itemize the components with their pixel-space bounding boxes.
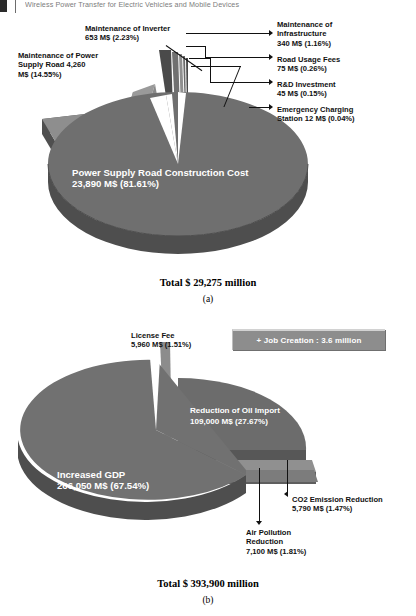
label-reduction-of-oil-import: Reduction of Oil Import 109,000 M$ (27.6… [190, 406, 340, 427]
job-creation-badge: + Job Creation : 3.6 million [232, 329, 385, 350]
figure-caption-b: (b) [0, 595, 416, 605]
label-co2-emission-reduction: CO2 Emission Reduction 5,790 M$ (1.47%) [292, 495, 416, 514]
label-line-1: Road Usage Fees [277, 55, 412, 64]
label-line-2: 45 M$ (0.15%) [277, 89, 412, 98]
leader-line-co2 [287, 460, 288, 494]
arrow-rnd-icon [269, 79, 273, 85]
leader-line-emergency-c [249, 107, 270, 108]
running-head-title: Wireless Power Transfer for Electric Veh… [25, 0, 405, 11]
page-marker-block [0, 0, 7, 12]
label-line-2: 653 M$ (2.23%) [85, 33, 203, 42]
job-creation-badge-text: + Job Creation : 3.6 million [233, 331, 385, 350]
leader-line-rnd-b [210, 58, 211, 82]
arrow-infrastructure-icon [269, 30, 273, 36]
label-emergency-charging-station: Emergency Charging Station 12 M$ (0.04%) [277, 105, 415, 124]
total-label-b: Total $ 393,900 million [0, 578, 416, 589]
label-license-fee: License Fee 5,960 M$ (1.51%) [131, 331, 231, 350]
figure-page: Wireless Power Transfer for Electric Veh… [0, 0, 416, 616]
label-line-2: 23,890 M$ (81.61%) [72, 179, 322, 190]
arrow-road-usage-icon [269, 54, 273, 60]
label-maintenance-power-supply-road: Maintenance of Power Supply Road 4,260 M… [18, 51, 128, 79]
label-line-1: Air Pollution [246, 528, 356, 537]
label-line-2: Supply Road 4,260 [18, 60, 128, 69]
label-line-3: 7,100 M$ (1.81%) [246, 547, 356, 556]
total-label-a: Total $ 29,275 million [0, 277, 416, 288]
leader-line-infrastructure [186, 33, 270, 34]
label-line-1: Maintenance of [277, 20, 412, 29]
label-line-2: Infrastructure [277, 29, 412, 38]
label-line-3: 340 M$ (1.16%) [277, 39, 412, 48]
leader-line-road-usage-c [205, 57, 270, 58]
label-line-2: Reduction [246, 537, 356, 546]
label-line-3: M$ (14.55%) [18, 70, 128, 79]
label-rnd-investment: R&D Investment 45 M$ (0.15%) [277, 80, 412, 99]
label-line-2: 75 M$ (0.26%) [277, 64, 412, 73]
label-line-1: CO2 Emission Reduction [292, 495, 416, 504]
label-line-1: R&D Investment [277, 80, 412, 89]
running-head-rule [15, 0, 16, 13]
label-line-1: Maintenance of Power [18, 51, 128, 60]
label-line-2: 266,050 M$ (67.54%) [57, 481, 222, 492]
label-line-2: 5,790 M$ (1.47%) [292, 504, 416, 513]
label-line-2: 5,960 M$ (1.51%) [131, 340, 231, 349]
leader-line-emergency-a [191, 66, 241, 67]
figure-caption-a: (a) [0, 294, 416, 304]
label-line-1: Reduction of Oil Import [190, 406, 340, 417]
leader-line-rnd-a [189, 58, 211, 59]
leader-line-air-pollution [259, 468, 260, 523]
label-line-1: Emergency Charging [277, 105, 415, 114]
label-power-supply-road-construction-cost: Power Supply Road Construction Cost 23,8… [72, 168, 322, 189]
label-line-2: 109,000 M$ (27.67%) [190, 417, 340, 428]
label-air-pollution-reduction: Air Pollution Reduction 7,100 M$ (1.81%) [246, 528, 356, 556]
label-line-1: License Fee [131, 331, 231, 340]
running-head: Wireless Power Transfer for Electric Veh… [0, 0, 416, 14]
label-increased-gdp: Increased GDP 266,050 M$ (67.54%) [57, 470, 222, 491]
arrow-co2-icon [284, 491, 288, 497]
leader-line-rnd-c [210, 82, 270, 83]
label-road-usage-fees: Road Usage Fees 75 M$ (0.26%) [277, 55, 412, 74]
label-line-1: Maintenance of Inverter [85, 24, 203, 33]
arrow-emergency-icon [269, 104, 273, 110]
arrow-air-pollution-icon [256, 521, 262, 525]
leader-line-road-usage-a [186, 46, 206, 47]
label-line-1: Increased GDP [57, 470, 222, 481]
label-line-1: Power Supply Road Construction Cost [72, 168, 322, 179]
label-line-2: Station 12 M$ (0.04%) [277, 114, 415, 123]
label-maintenance-of-infrastructure: Maintenance of Infrastructure 340 M$ (1.… [277, 20, 412, 48]
